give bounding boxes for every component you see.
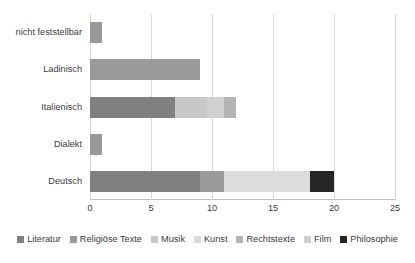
bar-segment (90, 134, 102, 155)
legend-label: Rechtstexte (246, 234, 295, 245)
x-tick-label: 10 (207, 203, 217, 213)
gridline-20 (334, 14, 335, 200)
legend-label: Religiöse Texte (80, 234, 142, 245)
bar-row (90, 59, 200, 80)
legend-item[interactable]: Rechtstexte (236, 234, 295, 245)
legend-label: Film (314, 234, 331, 245)
legend-item[interactable]: Kunst (194, 234, 228, 245)
bar-segment (90, 97, 175, 118)
x-tick-label: 5 (148, 203, 153, 213)
bar-segment (224, 171, 309, 192)
legend-item[interactable]: Film (304, 234, 331, 245)
bar-segment (200, 171, 224, 192)
bar-segment (310, 171, 334, 192)
legend-label: Philosophie (350, 234, 398, 245)
category-label: Ladinisch (0, 59, 82, 80)
category-label: Deutsch (0, 171, 82, 192)
legend-label: Literatur (27, 234, 61, 245)
legend-item[interactable]: Literatur (17, 234, 61, 245)
legend-swatch-icon (236, 236, 243, 243)
bar-segment (90, 22, 102, 43)
category-label: Italienisch (0, 97, 82, 118)
bar-segment (175, 97, 206, 118)
legend-item[interactable]: Musik (151, 234, 185, 245)
bar-row (90, 97, 236, 118)
category-label: Dialekt (0, 134, 82, 155)
legend-swatch-icon (194, 236, 201, 243)
legend-swatch-icon (304, 236, 311, 243)
chart-legend: LiteraturReligiöse TexteMusikKunstRechts… (0, 234, 415, 245)
legend-item[interactable]: Religiöse Texte (70, 234, 142, 245)
bar-row (90, 22, 102, 43)
x-tick-label: 0 (87, 203, 92, 213)
legend-swatch-icon (340, 236, 347, 243)
x-tick-label: 20 (329, 203, 339, 213)
legend-item[interactable]: Philosophie (340, 234, 398, 245)
gridline-25 (395, 14, 396, 200)
bar-segment (224, 97, 236, 118)
stacked-bar-chart: nicht feststellbarLadinischItalienischDi… (0, 0, 415, 263)
legend-swatch-icon (17, 236, 24, 243)
legend-swatch-icon (151, 236, 158, 243)
plot-area (90, 14, 395, 200)
bar-row (90, 134, 102, 155)
x-axis-line (90, 199, 395, 200)
category-label: nicht feststellbar (0, 22, 82, 43)
x-tick-label: 25 (390, 203, 400, 213)
bar-segment (206, 97, 224, 118)
bar-segment (90, 171, 200, 192)
legend-label: Kunst (204, 234, 228, 245)
bar-row (90, 171, 334, 192)
bar-segment (90, 59, 200, 80)
x-tick-label: 15 (268, 203, 278, 213)
legend-swatch-icon (70, 236, 77, 243)
legend-label: Musik (161, 234, 185, 245)
